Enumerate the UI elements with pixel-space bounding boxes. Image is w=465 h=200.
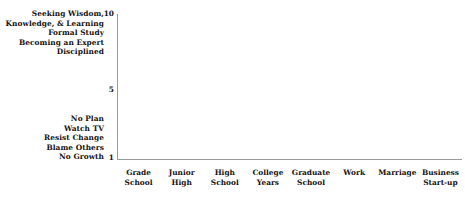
high-anchor-line: Disciplined [4, 47, 104, 57]
chart-plot-area [117, 14, 462, 160]
x-category-line: Business [419, 168, 462, 178]
x-category-graduate-school: Graduate School [290, 168, 333, 187]
x-category-line: Grade [117, 168, 160, 178]
low-anchor-line: Blame Others [4, 143, 104, 153]
y-tick-label-5: 5 [98, 86, 114, 94]
x-category-line: College [246, 168, 289, 178]
high-anchor-line: Knowledge, & Learning [4, 19, 104, 29]
x-category-junior-high: Junior High [160, 168, 203, 187]
x-category-line: Graduate [290, 168, 333, 178]
x-category-line: School [290, 178, 333, 188]
y-tick-label-1: 1 [98, 154, 114, 162]
y-axis-line [117, 14, 118, 160]
low-anchor-line: Resist Change [4, 133, 104, 143]
x-category-grade-school: Grade School [117, 168, 160, 187]
x-category-college-years: College Years [246, 168, 289, 187]
x-category-high-school: High School [203, 168, 246, 187]
x-category-line: High [160, 178, 203, 188]
low-anchor-text-block: No Plan Watch TV Resist Change Blame Oth… [4, 114, 104, 162]
high-anchor-text-block: Seeking Wisdom, Knowledge, & Learning Fo… [4, 9, 104, 57]
low-anchor-line: Watch TV [4, 124, 104, 134]
x-category-marriage: Marriage [376, 168, 419, 187]
high-anchor-line: Seeking Wisdom, [4, 9, 104, 19]
y-tick-label-10: 10 [98, 10, 114, 18]
high-anchor-line: Formal Study [4, 28, 104, 38]
x-category-line: Junior [160, 168, 203, 178]
low-anchor-line: No Growth [4, 152, 104, 162]
x-category-line: Work [333, 168, 376, 178]
x-axis-line [117, 159, 462, 160]
x-category-work: Work [333, 168, 376, 187]
low-anchor-line: No Plan [4, 114, 104, 124]
high-anchor-line: Becoming an Expert [4, 38, 104, 48]
x-category-line: School [117, 178, 160, 188]
x-category-line: Years [246, 178, 289, 188]
x-category-line: High [203, 168, 246, 178]
x-category-line: School [203, 178, 246, 188]
x-category-line: Start-up [419, 178, 462, 188]
x-category-business-start-up: Business Start-up [419, 168, 462, 187]
x-axis-category-labels: Grade School Junior High High School Col… [117, 168, 462, 187]
x-category-line: Marriage [376, 168, 419, 178]
